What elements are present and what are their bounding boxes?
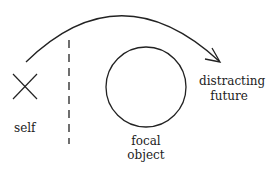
focal-object-circle	[106, 47, 186, 127]
label-object: object	[126, 149, 166, 162]
attention-diagram: self focal object distracting future	[0, 0, 266, 172]
label-distracting: distracting	[199, 75, 259, 88]
self-x-marker	[13, 74, 37, 99]
label-focal: focal	[126, 135, 166, 148]
label-future: future	[199, 90, 259, 103]
label-self: self	[14, 122, 36, 135]
